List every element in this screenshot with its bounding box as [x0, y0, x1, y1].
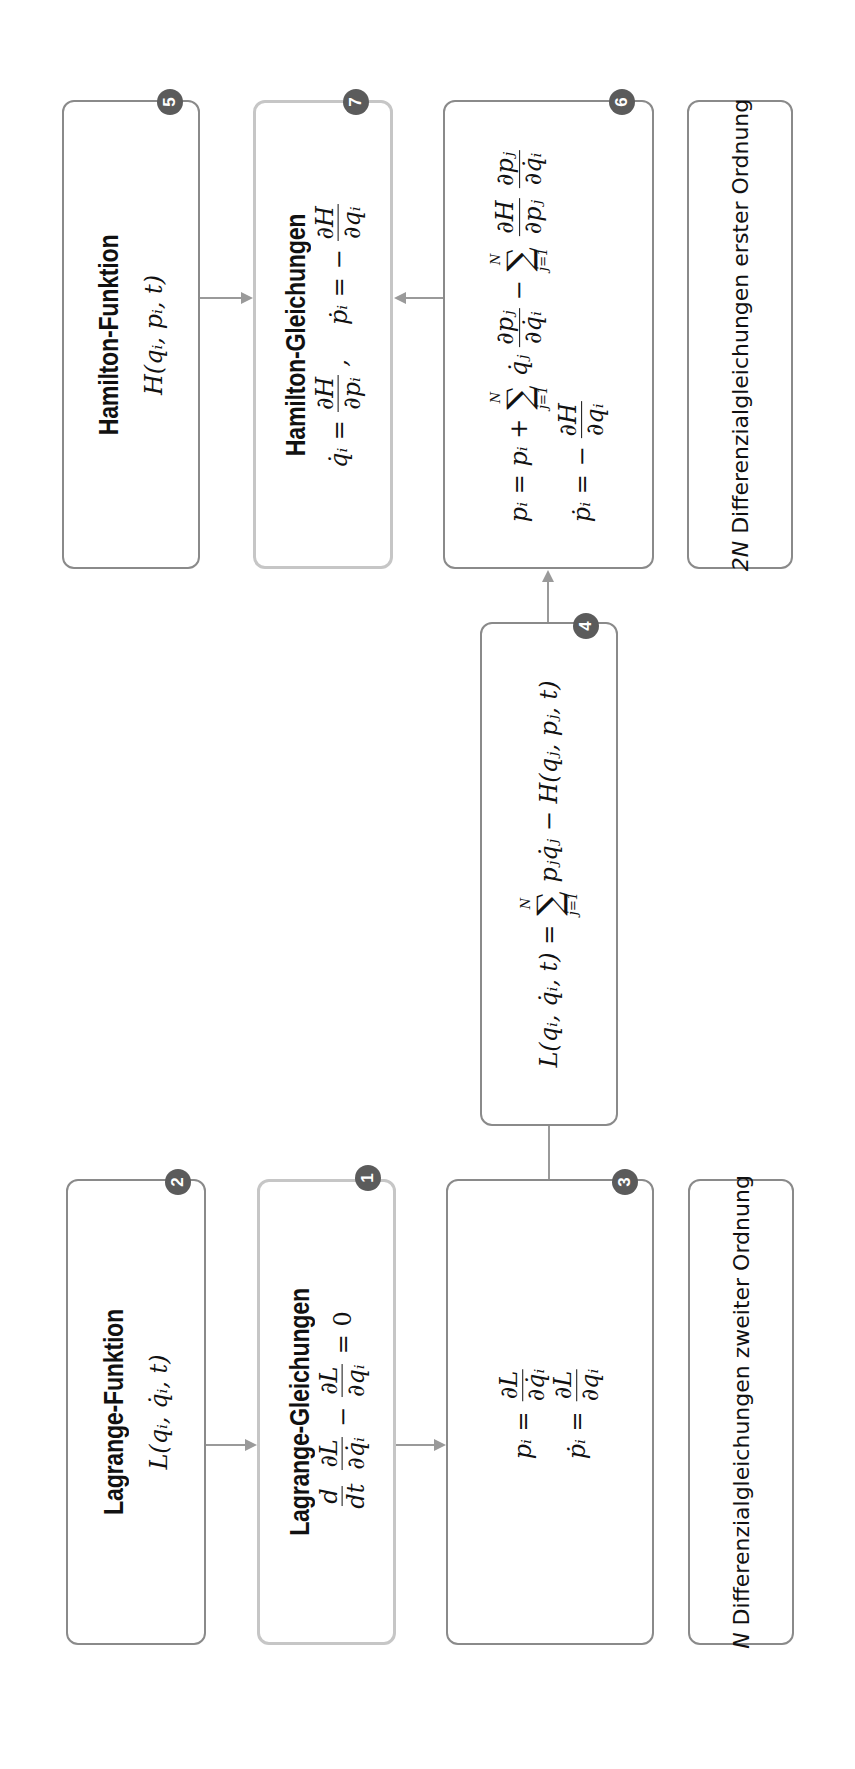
fraction-numerator: ∂pⱼ [492, 149, 519, 187]
fraction-denominator: ∂qᵢ [343, 1362, 369, 1399]
summary-var: N [729, 1632, 754, 1648]
sigma: ∑ [502, 385, 536, 409]
fraction: ∂H ∂qᵢ [555, 401, 609, 438]
fraction: ∂L ∂q̇ᵢ [315, 1435, 369, 1472]
minus: − [327, 1407, 357, 1427]
edge-n2-n1 [206, 1444, 246, 1446]
sum-lower: j=1 [536, 247, 549, 270]
summary-lagrange: N Differenzialgleichungen zweiter Ordnun… [688, 1179, 794, 1645]
fraction-numerator: ∂L [315, 1437, 342, 1469]
fraction-numerator: ∂H [492, 198, 519, 235]
sigma: ∑ [532, 891, 566, 915]
edge-n1-n3 [396, 1444, 435, 1446]
momentum-definition: pᵢ = ∂L ∂q̇ᵢ [496, 1365, 550, 1460]
momentum-derivative: ṗᵢ = ∂L ∂qᵢ [550, 1365, 604, 1460]
step-badge-6: 6 [609, 89, 635, 115]
node-content: pᵢ = pᵢ + N ∑ j=1 q̇ⱼ ∂pⱼ ∂q̇ᵢ − N ∑ j=1… [489, 147, 609, 521]
node-content: Lagrange-Funktion L(qᵢ, q̇ᵢ, t) [99, 1292, 174, 1531]
fraction-numerator: ∂H [312, 374, 339, 411]
hamilton-equations-expr: q̇ᵢ = ∂H ∂pᵢ , ṗᵢ = − ∂H ∂qᵢ [312, 202, 366, 468]
node-canonical-momenta: pᵢ = ∂L ∂q̇ᵢ ṗᵢ = ∂L ∂qᵢ [446, 1179, 654, 1645]
fraction: ∂pⱼ ∂q̇ᵢ [492, 149, 546, 187]
fraction-numerator: d [315, 1486, 342, 1505]
node-legendre-transform-derivation: pᵢ = pᵢ + N ∑ j=1 q̇ⱼ ∂pⱼ ∂q̇ᵢ − N ∑ j=1… [443, 100, 654, 569]
q-dot-lhs: q̇ᵢ = [324, 420, 354, 468]
fraction: ∂L ∂qᵢ [315, 1362, 369, 1399]
edge-n4-n6 [547, 580, 549, 622]
fraction-denominator: ∂q̇ᵢ [343, 1435, 369, 1472]
separator: , [324, 359, 354, 367]
node-hamilton-function: Hamilton-Funktion H(qᵢ, pᵢ, t) [62, 100, 200, 569]
edge-n3-n4 [548, 1126, 550, 1179]
summary-text: N Differenzialgleichungen zweiter Ordnun… [729, 1175, 754, 1649]
fraction: d dt [315, 1482, 369, 1511]
fraction: ∂H ∂qᵢ [312, 204, 366, 241]
edge-n6-n7 [405, 297, 443, 299]
fraction: ∂pⱼ ∂q̇ᵢ [492, 308, 546, 346]
fraction-denominator: ∂q̇ᵢ [519, 309, 545, 346]
fraction-denominator: ∂q̇ᵢ [519, 150, 545, 187]
edge-n5-n7 [200, 297, 242, 299]
summary-text: 2N Differenzialgleichungen erster Ordnun… [728, 98, 753, 571]
step-badge-7: 7 [343, 89, 369, 115]
node-content: Hamilton-Funktion H(qᵢ, pᵢ, t) [94, 218, 169, 451]
summary-hamilton: 2N Differenzialgleichungen erster Ordnun… [687, 100, 793, 569]
summary-label: Differenzialgleichungen erster Ordnung [728, 98, 753, 540]
node-content: Hamilton-Gleichungen q̇ᵢ = ∂H ∂pᵢ , ṗᵢ =… [281, 193, 366, 475]
summary-label: Differenzialgleichungen zweiter Ordnung [729, 1175, 754, 1632]
fraction: ∂L ∂q̇ᵢ [496, 1367, 550, 1404]
node-title: Lagrange-Funktion [99, 1309, 130, 1515]
fraction-numerator: ∂L [550, 1369, 577, 1401]
step-badge-3: 3 [612, 1169, 638, 1195]
sum-lower: j=1 [566, 892, 579, 915]
node-title: Lagrange-Gleichungen [284, 1288, 315, 1536]
sum-symbol: N ∑ j=1 [489, 247, 549, 271]
node-hamilton-equations: Hamilton-Gleichungen q̇ᵢ = ∂H ∂pᵢ , ṗᵢ =… [253, 100, 393, 569]
equals-zero: = 0 [327, 1311, 357, 1354]
fraction-denominator: ∂qᵢ [582, 401, 608, 438]
lagrange-equation-expr: d dt ∂L ∂q̇ᵢ − ∂L ∂qᵢ = 0 [315, 1311, 369, 1512]
fraction: ∂H ∂pᵢ [312, 374, 366, 411]
node-content: pᵢ = ∂L ∂q̇ᵢ ṗᵢ = ∂L ∂qᵢ [496, 1365, 604, 1460]
fraction-denominator: ∂pⱼ [519, 198, 545, 236]
momentum-equation: pᵢ = pᵢ + N ∑ j=1 q̇ⱼ ∂pⱼ ∂q̇ᵢ − N ∑ j=1… [489, 147, 549, 521]
fraction-numerator: ∂L [315, 1364, 342, 1396]
arrowhead-right-icon [241, 292, 253, 304]
momentum-derivative-equation: ṗᵢ = − ∂H ∂qᵢ [555, 399, 609, 522]
fraction-denominator: ∂qᵢ [339, 204, 365, 241]
lagrange-function-expr: L(qᵢ, q̇ᵢ, t) [144, 1354, 174, 1469]
lagrangian-lhs: L(qᵢ, q̇ᵢ, t) = [534, 925, 564, 1068]
node-lagrange-function: Lagrange-Funktion L(qᵢ, q̇ᵢ, t) [66, 1179, 206, 1645]
fraction: ∂L ∂qᵢ [550, 1367, 604, 1404]
p-dot-lhs: ṗᵢ = − [567, 446, 597, 522]
sigma: ∑ [502, 247, 536, 271]
minus: − [504, 280, 534, 300]
fraction-numerator: ∂H [555, 401, 582, 438]
node-content: Lagrange-Gleichungen d dt ∂L ∂q̇ᵢ − ∂L ∂… [284, 1268, 369, 1556]
step-badge-4-visible: 4 [573, 613, 599, 639]
node-content: L(qᵢ, q̇ᵢ, t) = N ∑ j=1 pⱼq̇ⱼ − H(qⱼ, pⱼ… [519, 680, 579, 1067]
legendre-rhs: pⱼq̇ⱼ − H(qⱼ, pⱼ, t) [534, 680, 564, 882]
legendre-equation: L(qᵢ, q̇ᵢ, t) = N ∑ j=1 pⱼq̇ⱼ − H(qⱼ, pⱼ… [519, 680, 579, 1067]
fraction-numerator: ∂L [496, 1369, 523, 1401]
momentum-lhs: pᵢ = [508, 1411, 538, 1459]
node-title: Hamilton-Funktion [94, 234, 125, 435]
momentum-lhs: pᵢ = pᵢ + [504, 418, 534, 522]
arrowhead-right-icon [245, 1439, 257, 1451]
p-dot-lhs: ṗᵢ = [562, 1411, 592, 1459]
arrowhead-left-icon [394, 292, 406, 304]
sum-lower: j=1 [536, 385, 549, 408]
arrowhead-right-icon [434, 1439, 446, 1451]
fraction-denominator: ∂q̇ᵢ [524, 1367, 550, 1404]
fraction-denominator: dt [343, 1482, 369, 1511]
sum-symbol: N ∑ j=1 [519, 891, 579, 915]
node-legendre-transform: L(qᵢ, q̇ᵢ, t) = N ∑ j=1 pⱼq̇ⱼ − H(qⱼ, pⱼ… [480, 622, 618, 1126]
fraction-denominator: ∂pᵢ [339, 375, 365, 412]
fraction-denominator: ∂qᵢ [577, 1367, 603, 1404]
step-badge-2: 2 [165, 1169, 191, 1195]
node-title: Hamilton-Gleichungen [281, 213, 312, 456]
p-dot-lhs: ṗᵢ = − [324, 249, 354, 325]
fraction-numerator: ∂H [312, 204, 339, 241]
step-badge-5: 5 [157, 89, 183, 115]
q-dot-j: q̇ⱼ [504, 354, 534, 376]
